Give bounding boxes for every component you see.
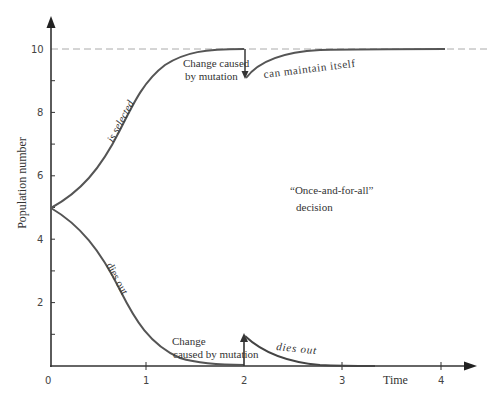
x-axis-title: Time bbox=[383, 373, 408, 387]
label-mutation-top-1: Change caused bbox=[183, 57, 250, 69]
x-tick-label-1: 1 bbox=[143, 375, 149, 386]
label-is-selected: is selected bbox=[104, 98, 136, 144]
y-tick-label-10: 10 bbox=[31, 44, 44, 55]
label-dies-out-1: dies out bbox=[104, 260, 131, 296]
y-tick-label-8: 8 bbox=[37, 107, 43, 118]
label-mutation-bot-2: caused by mutation bbox=[173, 348, 259, 360]
y-axis-title: Population number bbox=[15, 137, 29, 229]
label-mutation-bot-1: Change bbox=[172, 335, 206, 347]
label-decision-2: decision bbox=[296, 201, 333, 213]
x-axis-arrow-icon bbox=[464, 362, 477, 371]
y-tick-label-6: 6 bbox=[37, 170, 43, 181]
y-tick-label-4: 4 bbox=[37, 234, 43, 245]
x-tick-label-2: 2 bbox=[241, 375, 247, 386]
label-can-maintain: can maintain itself bbox=[263, 57, 356, 80]
x-tick-label-0: 0 bbox=[45, 375, 51, 386]
chart: 2 4 6 8 10 0 1 2 3 4 Population number T… bbox=[0, 0, 498, 403]
y-tick-label-2: 2 bbox=[37, 297, 43, 308]
label-mutation-top-2: by mutation bbox=[185, 70, 238, 82]
y-axis-arrow-icon bbox=[47, 16, 56, 28]
x-tick-label-3: 3 bbox=[339, 375, 345, 386]
label-dies-out-2: dies out bbox=[276, 340, 318, 356]
x-tick-label-4: 4 bbox=[438, 375, 444, 386]
label-decision-1: “Once-and-for-all” bbox=[290, 184, 374, 196]
curve-dies-out bbox=[51, 208, 244, 365]
